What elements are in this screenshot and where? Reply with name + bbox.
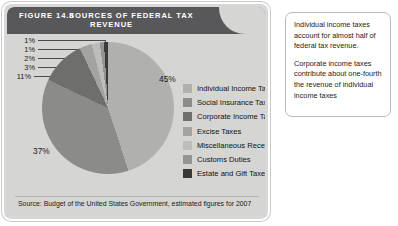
legend-item: Customs Duties xyxy=(183,152,265,166)
legend-swatch-icon xyxy=(183,127,192,136)
pie-label-estate-gift-taxes: 1% xyxy=(9,45,35,54)
figure-title-line2: REVENUE xyxy=(90,20,133,29)
figure-number: FIGURE 14.8 xyxy=(19,11,74,20)
pie-label-customs-duties: 1% xyxy=(9,36,35,45)
legend-item-label: Social Insurance Taxes xyxy=(197,98,265,107)
legend-item: Estate and Gift Taxes xyxy=(183,167,265,181)
legend-item: Corporate Income Taxes xyxy=(183,110,265,124)
pie-chart-area: 1% 1% 2% 3% 11% 45% 37% Individual Incom… xyxy=(7,34,265,196)
pie-label-corporate-income-taxes: 11% xyxy=(7,72,31,81)
legend-swatch-icon xyxy=(183,141,192,150)
chart-legend: Individual Income TaxesSocial Insurance … xyxy=(183,81,265,181)
pie-label-individual-income-taxes: 45% xyxy=(159,74,176,84)
legend-item-label: Estate and Gift Taxes xyxy=(197,169,265,178)
legend-item: Individual Income Taxes xyxy=(183,81,265,95)
legend-item-label: Corporate Income Taxes xyxy=(197,112,265,121)
legend-swatch-icon xyxy=(183,155,192,164)
caption-paragraph-2: Corporate income taxes contribute about … xyxy=(294,59,383,101)
figure-inner: FIGURE 14.8 SOURCES OF FEDERAL TAX REVEN… xyxy=(7,7,265,216)
legend-item: Social Insurance Taxes xyxy=(183,95,265,109)
legend-swatch-icon xyxy=(183,169,192,178)
legend-swatch-icon xyxy=(183,112,192,121)
legend-item-label: Individual Income Taxes xyxy=(197,84,265,93)
source-note: Source: Budget of the United States Gove… xyxy=(18,200,251,207)
legend-swatch-icon xyxy=(183,98,192,107)
pie-label-miscellaneous-receipts: 2% xyxy=(9,54,35,63)
legend-swatch-icon xyxy=(183,84,192,93)
figure-title-bar: FIGURE 14.8 SOURCES OF FEDERAL TAX REVEN… xyxy=(7,7,265,34)
source-divider xyxy=(15,196,259,197)
legend-item: Excise Taxes xyxy=(183,124,265,138)
legend-item-label: Excise Taxes xyxy=(197,127,241,136)
pie-label-social-insurance-taxes: 37% xyxy=(33,146,50,156)
legend-item: Miscellaneous Receipts xyxy=(183,138,265,152)
caption-paragraph-1: Individual income taxes account for almo… xyxy=(294,20,383,52)
pie-graphic xyxy=(42,42,174,174)
figure-title-line1: SOURCES OF FEDERAL TAX xyxy=(69,11,194,20)
caption-panel: Individual income taxes account for almo… xyxy=(285,12,391,117)
leader-line-customs xyxy=(38,40,106,41)
pie-label-excise-taxes: 3% xyxy=(9,63,35,72)
legend-item-label: Miscellaneous Receipts xyxy=(197,141,265,150)
legend-item-label: Customs Duties xyxy=(197,155,251,164)
figure-panel: FIGURE 14.8 SOURCES OF FEDERAL TAX REVEN… xyxy=(2,2,270,221)
